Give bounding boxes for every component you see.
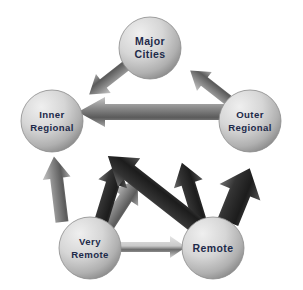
node-remote-label-line1: Remote — [193, 242, 234, 254]
node-major-cities-label-line1: Major — [135, 35, 165, 47]
node-inner-regional-label-line2: Regional — [30, 122, 74, 133]
node-inner-regional[interactable]: Inner Regional — [21, 90, 83, 152]
node-outer-regional-label-line1: Outer — [236, 109, 264, 120]
node-remote[interactable]: Remote — [182, 217, 244, 279]
node-very-remote-label-line2: Remote — [71, 249, 109, 260]
node-outer-regional[interactable]: Outer Regional — [219, 90, 281, 152]
node-major-cities[interactable]: Major Cities — [119, 17, 181, 79]
node-very-remote-label-line1: Very — [79, 236, 101, 247]
node-outer-regional-label-line2: Regional — [228, 122, 272, 133]
node-major-cities-label-line2: Cities — [135, 48, 166, 60]
arrow-outer-regional-to-inner-regional — [78, 97, 236, 127]
node-inner-regional-label-line1: Inner — [39, 109, 64, 120]
node-very-remote[interactable]: Very Remote — [59, 217, 121, 279]
diagram-canvas: Major Cities Inner Regional Outer Region… — [0, 0, 303, 290]
arrow-very-remote-to-remote — [121, 236, 186, 258]
arrow-very-remote-to-inner-regional — [40, 155, 76, 224]
pentagon-flow-diagram: Major Cities Inner Regional Outer Region… — [0, 0, 303, 290]
